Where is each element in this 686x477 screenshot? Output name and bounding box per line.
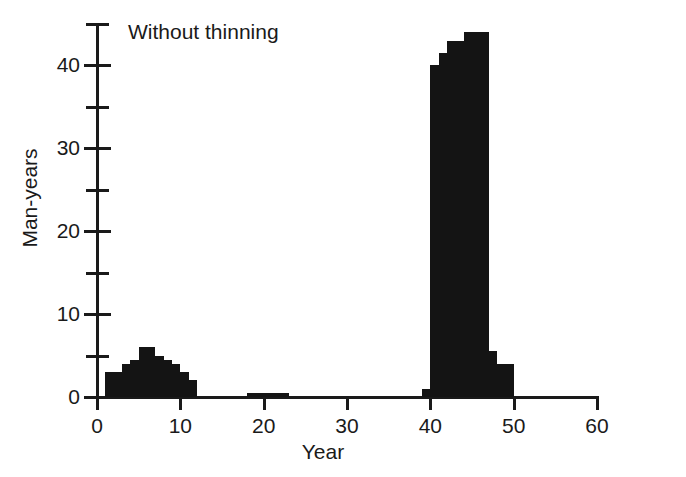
histogram-bar xyxy=(147,347,155,397)
y-axis-tick-label: 20 xyxy=(57,220,80,241)
x-axis-tick xyxy=(346,396,349,410)
histogram-bar xyxy=(164,360,172,397)
histogram-bar xyxy=(172,364,180,397)
x-axis-tick xyxy=(96,396,99,410)
x-axis-tick xyxy=(179,396,182,410)
histogram-bar xyxy=(447,41,455,397)
histogram-bar xyxy=(497,364,514,397)
histogram-bar xyxy=(489,351,497,397)
x-axis-tick-label: 0 xyxy=(67,414,127,438)
histogram-bar xyxy=(155,356,163,397)
histogram-bar xyxy=(139,347,147,397)
histogram-bar xyxy=(122,364,130,397)
x-axis-tick xyxy=(513,396,516,410)
histogram-bar xyxy=(114,372,122,397)
plot-area xyxy=(97,24,597,397)
x-axis-tick-label: 30 xyxy=(317,414,377,438)
y-axis-tick-label: 10 xyxy=(57,303,80,324)
x-axis-title: Year xyxy=(0,440,686,464)
histogram-bar xyxy=(105,372,113,397)
x-axis-tick-label: 60 xyxy=(567,414,627,438)
x-axis-tick-label: 50 xyxy=(484,414,544,438)
histogram-bar xyxy=(189,380,197,397)
y-axis-tick-label: 0 xyxy=(68,386,80,407)
x-axis-tick-label: 40 xyxy=(400,414,460,438)
y-axis-title: Man-years xyxy=(18,108,42,288)
histogram-bar xyxy=(464,32,489,397)
histogram-bar xyxy=(130,360,138,397)
histogram-bar xyxy=(180,372,188,397)
x-axis-tick-label: 20 xyxy=(234,414,294,438)
histogram-bar xyxy=(247,393,289,397)
x-axis-tick-label: 10 xyxy=(150,414,210,438)
y-axis-tick-label: 40 xyxy=(57,54,80,75)
histogram-bar xyxy=(455,41,463,397)
y-axis-tick-label: 30 xyxy=(57,137,80,158)
x-axis-tick xyxy=(263,396,266,410)
x-axis-title-text: Year xyxy=(302,440,344,464)
x-axis-tick xyxy=(429,396,432,410)
histogram-bar xyxy=(422,389,430,397)
x-axis-tick xyxy=(596,396,599,410)
histogram-bar xyxy=(439,53,447,397)
histogram-bar xyxy=(430,65,438,397)
histogram-figure: 010203040 0102030405060 Without thinning… xyxy=(0,0,686,477)
